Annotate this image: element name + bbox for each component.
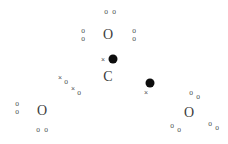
data-point-small-open-circle: o [112,8,116,16]
data-point-letter-c: C [103,70,112,84]
data-point-small-open-circle: o [196,93,200,101]
data-point-filled-dot [146,79,155,88]
scatter-plot-canvas: ooooooooooooooooooOOO××××C [0,0,228,144]
data-point-cross: × [58,74,62,81]
data-point-small-open-circle: o [177,126,181,134]
data-point-large-open-circle: O [37,104,47,118]
data-point-cross: × [71,85,75,92]
data-point-small-open-circle: o [15,108,19,116]
data-point-small-open-circle: o [81,35,85,43]
data-point-small-open-circle: o [132,35,136,43]
data-point-small-open-circle: o [189,89,193,97]
data-point-small-open-circle: o [215,124,219,132]
data-point-small-open-circle: o [64,78,68,86]
data-point-small-open-circle: o [36,126,40,134]
data-point-small-open-circle: o [104,8,108,16]
data-point-small-open-circle: o [170,122,174,130]
data-point-small-open-circle: o [208,120,212,128]
data-point-large-open-circle: O [103,28,113,42]
data-point-cross: × [101,56,105,63]
data-point-small-open-circle: o [77,89,81,97]
data-point-small-open-circle: o [44,126,48,134]
data-point-large-open-circle: O [184,106,194,120]
data-point-filled-dot [109,55,118,64]
data-point-cross: × [144,89,148,96]
